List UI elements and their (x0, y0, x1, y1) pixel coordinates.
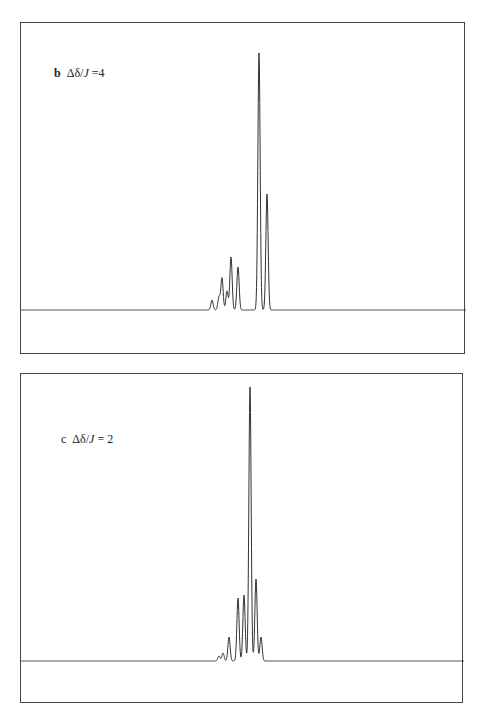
spectrum-trace-b (21, 23, 466, 355)
spectrum-panel-c: cΔδ/J = 2 (20, 373, 463, 703)
spectrum-panel-b: bΔδ/J =4 (20, 22, 465, 354)
spectrum-line (21, 387, 464, 661)
spectrum-trace-c (21, 374, 464, 704)
spectrum-line (21, 53, 466, 310)
